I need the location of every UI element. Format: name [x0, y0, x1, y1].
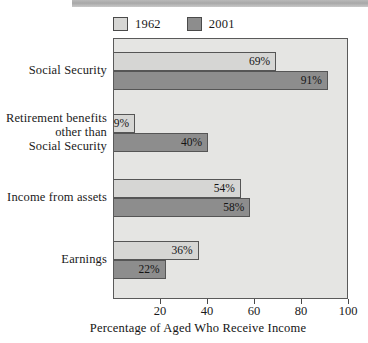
- bar-2001-1: 40%: [114, 133, 208, 152]
- legend-swatch-2001-icon: [187, 17, 202, 31]
- category-label-1: Retirement benefitsother thanSocial Secu…: [0, 111, 107, 153]
- category-label-0: Social Security: [0, 63, 107, 77]
- category-label-3: Earnings: [0, 252, 107, 266]
- bar-value-label: 9%: [114, 118, 134, 130]
- bar-row: 22%: [114, 260, 347, 279]
- bar-row: 69%: [114, 52, 347, 71]
- bar-value-label: 58%: [223, 202, 249, 214]
- bar-1962-0: 69%: [114, 52, 276, 71]
- legend-entry-1962: 1962: [113, 17, 161, 31]
- bar-row: 54%: [114, 179, 347, 198]
- bar-value-label: 54%: [214, 183, 240, 195]
- bar-row: 9%: [114, 114, 347, 133]
- x-tick-label-60: 60: [234, 304, 274, 318]
- category-label-line: other than: [0, 125, 107, 139]
- x-tick-label-40: 40: [187, 304, 227, 318]
- bar-2001-3: 22%: [114, 260, 166, 279]
- bar-2001-2: 58%: [114, 198, 250, 217]
- bar-1962-3: 36%: [114, 241, 199, 260]
- bar-value-label: 22%: [139, 264, 165, 276]
- legend-label-1962: 1962: [135, 18, 161, 31]
- bar-1962-2: 54%: [114, 179, 241, 198]
- bar-1962-1: 9%: [114, 114, 135, 133]
- x-axis-title: Percentage of Aged Who Receive Income: [0, 321, 368, 336]
- bar-value-label: 91%: [301, 75, 327, 87]
- bar-2001-0: 91%: [114, 71, 328, 90]
- bar-value-label: 40%: [181, 137, 207, 149]
- bar-value-label: 36%: [172, 245, 198, 257]
- bar-row: 36%: [114, 241, 347, 260]
- legend-label-2001: 2001: [209, 18, 235, 31]
- chart-legend: 1962 2001: [113, 17, 235, 31]
- bar-value-label: 69%: [249, 56, 275, 68]
- category-label-line: Earnings: [0, 252, 107, 266]
- category-label-2: Income from assets: [0, 190, 107, 204]
- bar-row: 91%: [114, 71, 347, 90]
- x-tick-label-80: 80: [281, 304, 321, 318]
- x-tick-label-20: 20: [140, 304, 180, 318]
- x-tick-label-100: 100: [328, 304, 368, 318]
- category-label-line: Social Security: [0, 139, 107, 153]
- legend-swatch-1962-icon: [113, 17, 128, 31]
- category-label-line: Retirement benefits: [0, 111, 107, 125]
- bars-layer: 69%91%9%40%54%58%36%22%: [114, 39, 347, 298]
- page-top-band: [72, 0, 368, 7]
- bar-row: 58%: [114, 198, 347, 217]
- category-label-line: Income from assets: [0, 190, 107, 204]
- category-label-line: Social Security: [0, 63, 107, 77]
- chart-plot-area: 69%91%9%40%54%58%36%22%: [113, 38, 348, 299]
- legend-entry-2001: 2001: [187, 17, 235, 31]
- bar-row: 40%: [114, 133, 347, 152]
